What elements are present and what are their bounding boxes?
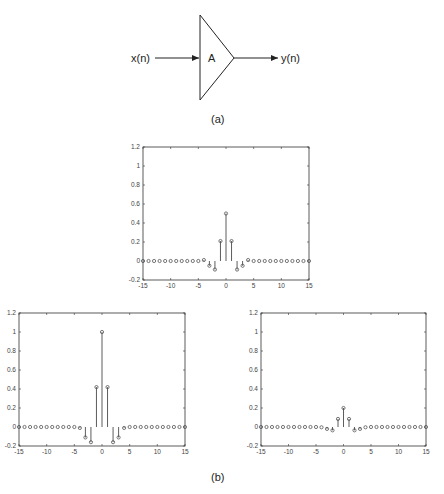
- stem-marker: [56, 425, 59, 428]
- stem-marker: [197, 259, 200, 262]
- stem-plot-bottom-left: -0.200.20.40.60.811.2-15-10-5051015: [5, 309, 189, 455]
- stem-marker: [309, 425, 312, 428]
- stem-marker: [150, 425, 153, 428]
- stem-marker: [62, 425, 65, 428]
- y-tick-label: 0: [136, 257, 140, 264]
- stem-marker: [369, 425, 372, 428]
- stem-marker: [178, 425, 181, 428]
- stem-marker: [161, 425, 164, 428]
- y-tick-label: 0.8: [7, 347, 16, 354]
- stem-marker: [139, 425, 142, 428]
- stem-marker: [145, 425, 148, 428]
- stem-marker: [67, 425, 70, 428]
- y-tick-label: 0.2: [131, 238, 140, 245]
- stem-marker: [263, 259, 266, 262]
- stem-marker: [175, 259, 178, 262]
- y-tick-label: 0.4: [131, 219, 140, 226]
- y-tick-label: 1.2: [249, 309, 258, 316]
- stem-marker: [302, 259, 305, 262]
- stem-marker: [51, 425, 54, 428]
- stem-marker: [285, 259, 288, 262]
- stem-marker: [152, 259, 155, 262]
- x-tick-label: -10: [166, 282, 176, 289]
- stem-marker: [134, 425, 137, 428]
- stem-marker: [269, 259, 272, 262]
- x-tick-label: -5: [313, 448, 319, 455]
- stem-marker: [158, 259, 161, 262]
- y-tick-label: 0.6: [249, 366, 258, 373]
- x-tick-label: -10: [42, 448, 52, 455]
- x-tick-label: 15: [305, 282, 313, 289]
- y-tick-label: 1: [136, 162, 140, 169]
- stem-marker: [34, 425, 37, 428]
- stem-marker: [419, 425, 422, 428]
- x-tick-label: 5: [369, 448, 373, 455]
- x-tick-label: 5: [252, 282, 256, 289]
- x-tick-label: 0: [342, 448, 346, 455]
- x-tick-label: -15: [14, 448, 24, 455]
- y-tick-label: 0.2: [249, 404, 258, 411]
- stem-marker: [270, 425, 273, 428]
- stem-marker: [169, 259, 172, 262]
- y-tick-label: 1: [12, 328, 16, 335]
- stem-marker: [128, 425, 131, 428]
- stem-marker: [276, 425, 279, 428]
- stem-marker: [380, 425, 383, 428]
- stem-marker: [375, 425, 378, 428]
- stem-marker: [28, 425, 31, 428]
- stem-marker: [156, 425, 159, 428]
- stem-marker: [320, 426, 323, 429]
- stem-marker: [291, 259, 294, 262]
- stem-marker: [314, 425, 317, 428]
- output-label: y(n): [281, 52, 300, 64]
- stem-marker: [180, 259, 183, 262]
- x-tick-label: -15: [256, 448, 266, 455]
- stem-marker: [73, 425, 76, 428]
- stem-marker: [191, 259, 194, 262]
- y-tick-label: 0: [12, 423, 16, 430]
- stem-marker: [258, 259, 261, 262]
- x-tick-label: 10: [395, 448, 403, 455]
- stem-marker: [164, 259, 167, 262]
- amplifier-diagram: x(n) A y(n) (a): [131, 15, 300, 125]
- stem-marker: [364, 426, 367, 429]
- x-tick-label: -15: [138, 282, 148, 289]
- x-tick-label: 5: [128, 448, 132, 455]
- y-tick-label: 0.2: [7, 404, 16, 411]
- x-tick-label: -5: [71, 448, 77, 455]
- y-tick-label: 0: [254, 423, 258, 430]
- stem-marker: [386, 425, 389, 428]
- x-tick-label: 15: [422, 448, 430, 455]
- x-tick-label: -10: [284, 448, 294, 455]
- stem-marker: [287, 425, 290, 428]
- y-tick-label: 0.4: [249, 385, 258, 392]
- stem-marker: [413, 425, 416, 428]
- y-tick-label: 0.8: [249, 347, 258, 354]
- stem-marker: [408, 425, 411, 428]
- stem-marker: [23, 425, 26, 428]
- stem-marker: [252, 259, 255, 262]
- stem-marker: [402, 425, 405, 428]
- stem-plot-bottom-right: -0.200.20.40.60.811.2-15-10-5051015: [247, 309, 430, 455]
- x-tick-label: 15: [181, 448, 189, 455]
- stem-marker: [391, 425, 394, 428]
- stem-marker: [292, 425, 295, 428]
- stem-marker: [281, 425, 284, 428]
- y-tick-label: 0.6: [7, 366, 16, 373]
- figure-canvas: x(n) A y(n) (a) -0.200.20.40.60.811.2-15…: [0, 0, 444, 494]
- y-tick-label: 1.2: [131, 143, 140, 150]
- y-tick-label: 1.2: [7, 309, 16, 316]
- y-tick-label: 0.4: [7, 385, 16, 392]
- stem-marker: [280, 259, 283, 262]
- stem-marker: [265, 425, 268, 428]
- y-tick-label: 0.8: [131, 181, 140, 188]
- input-label: x(n): [131, 52, 150, 64]
- stem-marker: [303, 425, 306, 428]
- caption-b: (b): [211, 471, 224, 483]
- stem-marker: [296, 259, 299, 262]
- stem-marker: [397, 425, 400, 428]
- stem-marker: [186, 259, 189, 262]
- y-tick-label: 0.6: [131, 200, 140, 207]
- x-tick-label: 10: [278, 282, 286, 289]
- stem-marker: [167, 425, 170, 428]
